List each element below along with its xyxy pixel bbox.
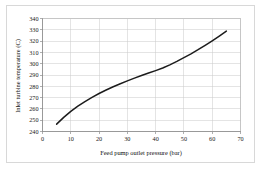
y-tick-label: 330 <box>29 26 38 33</box>
y-tick-label: 240 <box>29 128 38 135</box>
x-axis-tick-labels: 010203040506070 <box>41 135 244 142</box>
x-tick-label: 20 <box>96 135 102 142</box>
line-chart: 010203040506070 240250260270280290300310… <box>0 0 262 170</box>
chart-figure: 010203040506070 240250260270280290300310… <box>0 0 262 170</box>
y-tick-label: 320 <box>29 37 38 44</box>
x-tick-label: 30 <box>124 135 130 142</box>
y-tick-label: 340 <box>29 15 38 22</box>
x-axis-title: Feed pump outlet pressure (bar) <box>100 149 182 157</box>
x-tick-label: 10 <box>68 135 74 142</box>
x-tick-label: 60 <box>209 135 215 142</box>
plot-area-wrapper: 010203040506070 240250260270280290300310… <box>0 0 262 170</box>
data-series-layer <box>57 31 227 124</box>
x-tick-label: 40 <box>153 135 159 142</box>
x-tick-label: 70 <box>237 135 243 142</box>
y-tick-label: 290 <box>29 71 38 78</box>
y-tick-label: 260 <box>29 105 38 112</box>
y-axis-tick-labels: 240250260270280290300310320330340 <box>29 15 38 135</box>
data-series-line <box>57 31 227 124</box>
y-tick-label: 310 <box>29 49 38 56</box>
y-tick-label: 280 <box>29 83 38 90</box>
y-axis-title: Inlet turbine temperature (C) <box>14 39 22 113</box>
y-tick-label: 300 <box>29 60 38 67</box>
x-tick-label: 50 <box>181 135 187 142</box>
y-tick-label: 270 <box>29 94 38 101</box>
y-tick-label: 250 <box>29 116 38 123</box>
x-tick-label: 0 <box>41 135 44 142</box>
